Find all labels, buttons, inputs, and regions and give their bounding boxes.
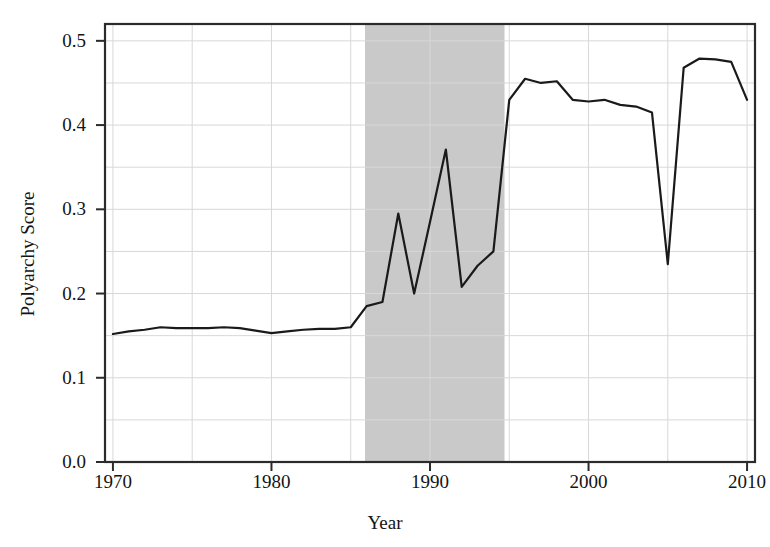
shaded-region-rect [365, 24, 505, 462]
grid-lines [105, 24, 755, 462]
y-tick-label: 0.3 [32, 198, 86, 220]
x-tick-label: 1990 [411, 471, 449, 493]
line-chart-plot [0, 0, 770, 547]
x-tick-label: 1970 [94, 471, 132, 493]
x-tick-label: 2010 [728, 471, 766, 493]
y-tick-label: 0.0 [32, 451, 86, 473]
chart-figure: Polyarchy Score Year 1970198019902000201… [0, 0, 770, 547]
shaded-period-region [365, 24, 505, 462]
x-tick-label: 2000 [570, 471, 608, 493]
y-tick-label: 0.5 [32, 30, 86, 52]
y-tick-label: 0.2 [32, 283, 86, 305]
x-tick-label: 1980 [252, 471, 290, 493]
y-tick-label: 0.1 [32, 367, 86, 389]
y-tick-label: 0.4 [32, 114, 86, 136]
